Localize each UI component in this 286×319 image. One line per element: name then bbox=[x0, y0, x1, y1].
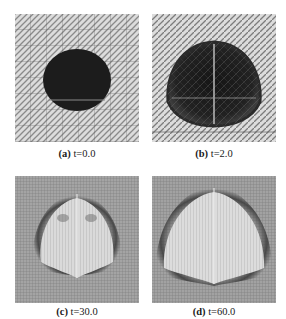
panel-c-caption: (c) t=30.0 bbox=[12, 306, 142, 317]
panel-a-image bbox=[15, 14, 139, 142]
panel-d-caption: (d) t=60.0 bbox=[149, 306, 279, 317]
panel-c-image bbox=[15, 176, 139, 303]
drop-shape bbox=[43, 49, 111, 111]
panel-a-caption: (a) t=0.0 bbox=[12, 148, 142, 159]
panel-b-image bbox=[152, 14, 276, 142]
panel-d-image bbox=[152, 176, 276, 303]
panel-b-caption: (b) t=2.0 bbox=[149, 148, 279, 159]
